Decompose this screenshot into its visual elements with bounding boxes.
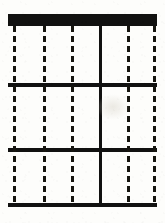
vertical-rule-v-centre (99, 26, 102, 207)
vertical-rule-v-col-2 (71, 26, 74, 207)
horizontal-rule-2 (8, 148, 157, 152)
scanned-grid-canvas (0, 0, 165, 223)
horizontal-rule-3 (8, 203, 157, 207)
vertical-rule-v-col-4 (127, 26, 130, 207)
vertical-rule-v-left-edge (13, 26, 16, 207)
header-bar (8, 14, 157, 26)
vertical-rule-v-right-edge (153, 26, 156, 207)
horizontal-rule-1 (8, 83, 157, 87)
scan-grain (0, 0, 165, 223)
vertical-rule-v-col-1 (43, 26, 46, 207)
